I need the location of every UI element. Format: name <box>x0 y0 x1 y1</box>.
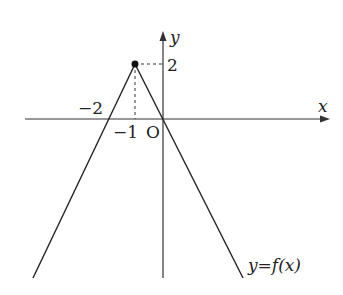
origin-label: O <box>146 122 160 142</box>
y-axis-label: y <box>169 27 180 47</box>
x-axis-arrow-icon <box>320 116 330 123</box>
curve-left-branch <box>33 64 135 278</box>
tick-label-x-minus-1: −1 <box>113 122 138 142</box>
curve-right-branch <box>135 64 243 278</box>
y-axis-arrow-icon <box>160 31 167 41</box>
x-axis-label: x <box>318 96 328 116</box>
tick-label-x-minus-2: −2 <box>78 98 103 118</box>
tick-label-y-2: 2 <box>167 55 178 75</box>
curve-label: y=f(x) <box>247 255 301 275</box>
peak-point-dot <box>132 61 139 68</box>
function-graph: y x 2 −2 −1 O y=f(x) <box>0 0 343 295</box>
graph-svg: y x 2 −2 −1 O y=f(x) <box>0 0 343 295</box>
